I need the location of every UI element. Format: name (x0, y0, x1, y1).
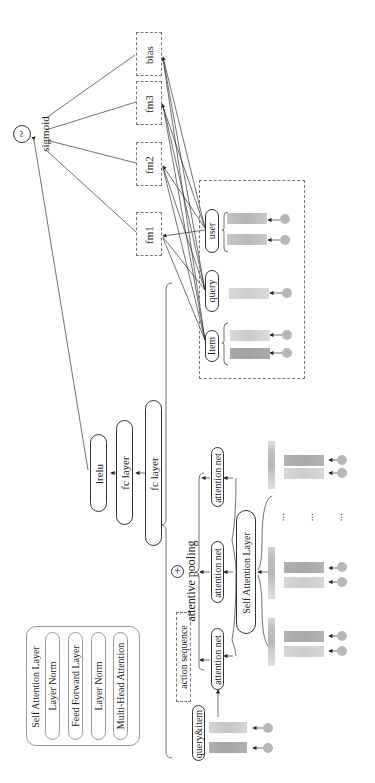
fm-box-fm1: fm1 (136, 212, 162, 256)
fm-box-fm2: fm2 (136, 142, 162, 186)
input-node (282, 288, 292, 298)
input-node (280, 235, 290, 245)
ellipsis: ... (303, 507, 315, 527)
sequence-embedding (284, 577, 324, 588)
sequence-vector-1 (268, 618, 275, 666)
sequence-embedding (284, 646, 324, 657)
embedding-item-2 (230, 348, 270, 359)
sum-operator-icon: + (171, 565, 184, 578)
sequence-embedding (284, 455, 324, 466)
sequence-vector-2 (268, 547, 275, 599)
self-attention-layer-block: Self Attention Layer (236, 510, 256, 634)
fm-box-fm3: fm3 (136, 81, 162, 125)
embedding-user-1 (227, 213, 267, 224)
embedding-item-1 (230, 330, 270, 341)
attention-net-2: attention net (211, 541, 224, 603)
action-sequence-box: action sequence (176, 612, 191, 702)
legend-item-feed-forward: Feed Forward Layer (68, 632, 83, 740)
mlp-fc-layer-1: fc layer (116, 420, 133, 525)
embedding-user-2 (227, 234, 267, 245)
embedding-query-item-1 (209, 722, 247, 733)
legend-title: Self Attention Layer (30, 631, 42, 743)
input-node (337, 631, 347, 641)
ellipsis: ... (274, 507, 286, 527)
sequence-vector-3 (268, 441, 275, 489)
sigmoid-wave-icon: ~ (14, 126, 30, 142)
input-node (263, 723, 273, 733)
input-node (337, 646, 347, 656)
fm-box-bias: bias (136, 32, 162, 76)
embedding-query (229, 288, 269, 299)
field-query: query (205, 270, 219, 312)
input-node (337, 455, 347, 465)
input-node (337, 577, 347, 587)
sequence-embedding (284, 468, 324, 479)
sigmoid-node: ~ (13, 125, 31, 143)
field-user: user (205, 209, 219, 253)
input-node (282, 330, 292, 340)
mlp-fc-layer-2: fc layer (145, 400, 162, 546)
sequence-embedding (284, 562, 324, 573)
legend-self-attention-layer: Self Attention Layer Layer Norm Feed For… (26, 626, 140, 746)
input-node (280, 214, 290, 224)
mlp-lrelu: lrelu (90, 434, 107, 512)
legend-item-layer-norm-2: Layer Norm (91, 632, 106, 740)
input-node (337, 562, 347, 572)
field-item: Item (205, 330, 219, 362)
input-node (282, 348, 292, 358)
input-node (263, 743, 273, 753)
ellipsis: ... (332, 507, 344, 527)
legend-item-layer-norm-1: Layer Norm (45, 632, 60, 740)
sigmoid-label: sigmoid (39, 109, 51, 159)
input-node (337, 468, 347, 478)
sequence-embedding (284, 631, 324, 642)
attention-net-3: attention net (211, 447, 224, 507)
attention-net-1: attention net (211, 628, 224, 690)
embedding-query-item-2 (209, 742, 247, 753)
legend-item-multi-head-attention: Multi-Head Attention (113, 632, 128, 740)
query-item-label-pill: query&item (192, 705, 205, 761)
